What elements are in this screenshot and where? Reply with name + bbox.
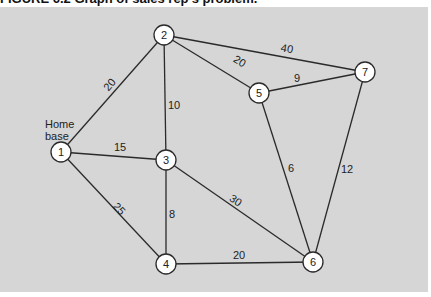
svg-text:6: 6 [310,256,316,268]
edge-2-3 [164,35,166,160]
svg-text:7: 7 [362,66,368,78]
weight-7-6: 12 [341,163,353,175]
edge-7-6 [313,72,365,262]
weight-1-4: 25 [111,200,128,217]
edge-1-2 [61,35,164,152]
home-label-line1: Home [45,118,74,130]
node-1: 1 [51,142,71,162]
node-6: 6 [303,252,323,272]
graph-diagram: 20 15 25 10 20 40 8 30 20 6 9 12 1 2 3 4… [0,0,431,297]
weight-3-6: 30 [227,192,244,209]
edge-3-6 [166,160,313,262]
svg-text:3: 3 [163,154,169,166]
weight-2-7: 40 [280,41,294,55]
node-5: 5 [249,83,269,103]
weight-2-3: 10 [168,99,180,111]
svg-text:4: 4 [163,258,169,270]
weight-4-6: 20 [233,249,245,261]
weight-2-5: 20 [231,53,248,70]
weight-3-4: 8 [169,208,175,220]
home-base-label: Home base [45,118,74,142]
svg-text:5: 5 [256,87,262,99]
edge-1-3 [61,152,166,160]
node-4: 4 [156,254,176,274]
node-7: 7 [355,62,375,82]
svg-text:1: 1 [58,146,64,158]
edge-weights: 20 15 25 10 20 40 8 30 20 6 9 12 [101,41,353,261]
weight-5-7: 9 [294,72,300,84]
svg-text:2: 2 [161,29,167,41]
edges [61,35,365,264]
weight-5-6: 6 [288,162,294,174]
edge-5-6 [259,93,313,262]
node-3: 3 [156,150,176,170]
weight-1-3: 15 [114,141,126,153]
edge-5-7 [259,72,365,93]
edge-4-6 [166,262,313,264]
node-2: 2 [154,25,174,45]
home-label-line2: base [45,130,74,142]
